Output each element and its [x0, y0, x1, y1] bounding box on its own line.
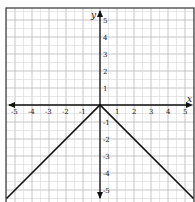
y-tick-label: 4: [103, 34, 108, 42]
x-tick-label: -1: [79, 108, 86, 116]
x-tick-label: -4: [28, 108, 35, 116]
y-tick-label: 2: [103, 68, 107, 76]
y-axis-up-arrow-icon: [97, 10, 103, 17]
x-tick-label: -5: [11, 108, 18, 116]
y-tick-label: -4: [103, 170, 110, 178]
x-tick-label: 2: [132, 108, 136, 116]
y-axis-label: y: [90, 10, 97, 20]
y-tick-label: -2: [103, 136, 110, 144]
x-tick-label: -3: [45, 108, 52, 116]
x-tick-label: -2: [62, 108, 69, 116]
y-tick-label: -5: [103, 187, 110, 195]
y-tick-label: 3: [103, 51, 107, 59]
x-axis-label: x: [187, 94, 192, 104]
y-tick-label: 1: [103, 85, 107, 93]
coordinate-plane: -5-4-3-2-11234554321-1-2-3-4-5 x y: [0, 0, 195, 202]
x-tick-label: 1: [115, 108, 119, 116]
x-tick-label: 5: [183, 108, 187, 116]
y-tick-label: -1: [103, 119, 110, 127]
y-tick-label: -3: [103, 153, 110, 161]
x-tick-label: 4: [166, 108, 171, 116]
x-tick-label: 3: [149, 108, 153, 116]
y-tick-label: 5: [103, 17, 107, 25]
